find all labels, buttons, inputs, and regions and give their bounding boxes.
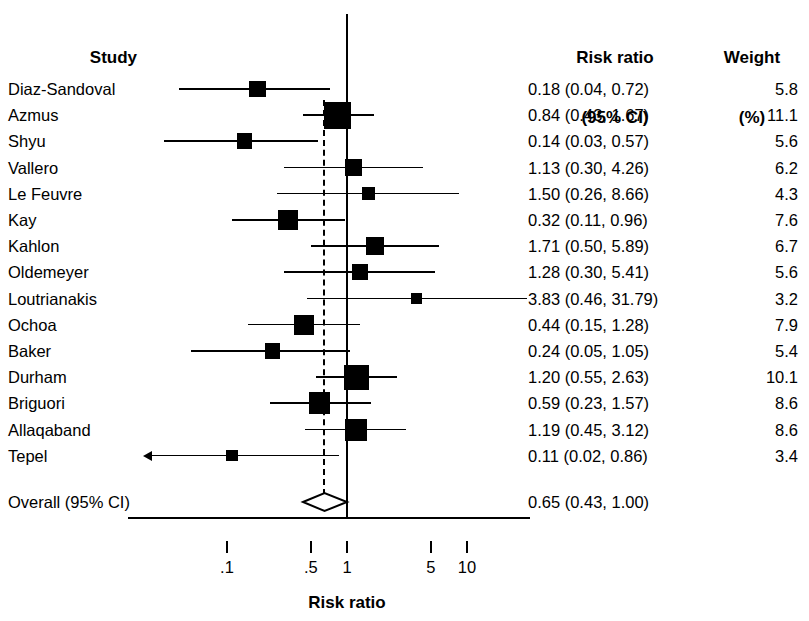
risk-ratio-value: 1.50 (0.26, 8.66): [528, 181, 704, 207]
study-row: Diaz-Sandoval0.18 (0.04, 0.72)5.8: [0, 76, 809, 102]
x-axis-tick-label: 5: [426, 557, 435, 577]
effect-size-marker: [309, 392, 331, 414]
x-axis-tick-mark: [310, 541, 312, 553]
study-name: Kay: [8, 207, 183, 233]
study-name: Baker: [8, 338, 183, 364]
weight-value: 5.6: [700, 259, 798, 285]
study-name: Ochoa: [8, 312, 183, 338]
weight-value: 7.9: [700, 312, 798, 338]
x-axis-tick-label: .5: [304, 557, 318, 577]
risk-ratio-value: 0.44 (0.15, 1.28): [528, 312, 704, 338]
confidence-interval-line: [151, 455, 339, 457]
risk-ratio-value: 0.24 (0.05, 1.05): [528, 338, 704, 364]
weight-value: 6.2: [700, 155, 798, 181]
study-row: Le Feuvre1.50 (0.26, 8.66)4.3: [0, 181, 809, 207]
study-row: Allaqaband1.19 (0.45, 3.12)8.6: [0, 417, 809, 443]
risk-ratio-value: 3.83 (0.46, 31.79): [528, 286, 704, 312]
risk-ratio-value: 0.11 (0.02, 0.86): [528, 443, 704, 469]
effect-size-marker: [352, 264, 368, 280]
study-row: Shyu0.14 (0.03, 0.57)5.6: [0, 128, 809, 154]
x-axis-title: Risk ratio: [308, 593, 385, 613]
study-name: Shyu: [8, 128, 183, 154]
overall-diamond-marker: [0, 487, 809, 521]
x-axis-tick-mark: [226, 541, 228, 553]
overall-row: Overall (95% CI) 0.65 (0.43, 1.00): [0, 487, 809, 517]
study-row: Briguori0.59 (0.23, 1.57)8.6: [0, 390, 809, 416]
x-axis-line: [128, 517, 530, 519]
weight-value: 7.6: [700, 207, 798, 233]
weight-value: 3.4: [700, 443, 798, 469]
study-name: Diaz-Sandoval: [8, 76, 183, 102]
study-row: Kay0.32 (0.11, 0.96)7.6: [0, 207, 809, 233]
study-name: Oldemeyer: [8, 259, 183, 285]
risk-ratio-value: 1.28 (0.30, 5.41): [528, 259, 704, 285]
effect-size-marker: [294, 315, 315, 336]
x-axis-tick-mark: [430, 541, 432, 553]
effect-size-marker: [345, 159, 362, 176]
study-row: Baker0.24 (0.05, 1.05)5.4: [0, 338, 809, 364]
study-name: Allaqaband: [8, 417, 183, 443]
column-header-study-label: Study: [90, 48, 137, 67]
study-row: Ochoa0.44 (0.15, 1.28)7.9: [0, 312, 809, 338]
weight-value: 3.2: [700, 286, 798, 312]
risk-ratio-value: 1.20 (0.55, 2.63): [528, 364, 704, 390]
weight-value: 8.6: [700, 417, 798, 443]
effect-size-marker: [362, 187, 375, 200]
study-row: Loutrianakis3.83 (0.46, 31.79)3.2: [0, 286, 809, 312]
weight-value: 11.1: [700, 102, 798, 128]
risk-ratio-value: 0.84 (0.43, 1.67): [528, 102, 704, 128]
weight-value: 5.8: [700, 76, 798, 102]
ci-left-arrow-icon: [143, 451, 152, 461]
study-name: Vallero: [8, 155, 183, 181]
study-name: Briguori: [8, 390, 183, 416]
effect-size-marker: [249, 81, 265, 97]
study-row: Azmus0.84 (0.43, 1.67)11.1: [0, 102, 809, 128]
effect-size-marker: [237, 133, 253, 149]
risk-ratio-value: 0.14 (0.03, 0.57): [528, 128, 704, 154]
effect-size-marker: [324, 102, 351, 129]
weight-value: 4.3: [700, 181, 798, 207]
study-row: Kahlon1.71 (0.50, 5.89)6.7: [0, 233, 809, 259]
column-header-risk-ratio-line1: Risk ratio: [530, 48, 700, 68]
risk-ratio-value: 1.71 (0.50, 5.89): [528, 233, 704, 259]
study-name: Azmus: [8, 102, 183, 128]
effect-size-marker: [265, 343, 280, 358]
study-row: Tepel0.11 (0.02, 0.86)3.4: [0, 443, 809, 469]
study-row: Durham1.20 (0.55, 2.63)10.1: [0, 364, 809, 390]
weight-value: 5.6: [700, 128, 798, 154]
risk-ratio-value: 0.18 (0.04, 0.72): [528, 76, 704, 102]
study-name: Kahlon: [8, 233, 183, 259]
effect-size-marker: [411, 293, 422, 304]
x-axis-tick-label: 10: [458, 557, 476, 577]
column-header-weight-line1: Weight: [706, 48, 798, 68]
overall-risk-ratio-value: 0.65 (0.43, 1.00): [528, 487, 649, 517]
study-name: Durham: [8, 364, 183, 390]
weight-value: 8.6: [700, 390, 798, 416]
weight-value: 10.1: [700, 364, 798, 390]
risk-ratio-value: 1.19 (0.45, 3.12): [528, 417, 704, 443]
effect-size-marker: [345, 419, 367, 441]
effect-size-marker: [344, 365, 369, 390]
effect-size-marker: [366, 237, 384, 255]
effect-size-marker: [226, 450, 237, 461]
study-row: Oldemeyer1.28 (0.30, 5.41)5.6: [0, 259, 809, 285]
study-row: Vallero1.13 (0.30, 4.26)6.2: [0, 155, 809, 181]
risk-ratio-value: 1.13 (0.30, 4.26): [528, 155, 704, 181]
x-axis-tick-label: .1: [220, 557, 234, 577]
study-name: Le Feuvre: [8, 181, 183, 207]
x-axis-tick-mark: [346, 541, 348, 553]
weight-value: 6.7: [700, 233, 798, 259]
risk-ratio-value: 0.59 (0.23, 1.57): [528, 390, 704, 416]
x-axis-tick-mark: [466, 541, 468, 553]
risk-ratio-value: 0.32 (0.11, 0.96): [528, 207, 704, 233]
weight-value: 5.4: [700, 338, 798, 364]
x-axis-tick-label: 1: [342, 557, 351, 577]
effect-size-marker: [278, 210, 298, 230]
study-name: Loutrianakis: [8, 286, 183, 312]
forest-plot-figure: Study Risk ratio (95% CI) Weight (%) Dia…: [0, 0, 809, 621]
